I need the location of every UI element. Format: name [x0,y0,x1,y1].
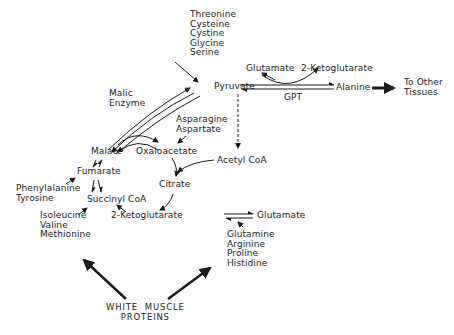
arrow-precursors-to-glutamate [238,222,243,227]
label-glutamate-bottom: Glutamate [257,210,305,220]
label-to-other-tissues: To Other Tissues [404,78,443,97]
label-pyruvate: Pyruvate [214,81,255,91]
label-citrate: Citrate [159,179,190,189]
label-succinyl-coa: Succinyl CoA [87,194,146,204]
label-gpt: GPT [284,92,302,102]
label-asparagine-aspartate: Asparagine Aspartate [176,115,228,134]
label-acetyl-coa: Acetyl CoA [217,155,267,165]
label-ketoglutarate-bottom: 2-Ketoglutarate [111,210,183,220]
label-phenylalanine-tyrosine: Phenylalanine Tyrosine [16,184,80,203]
label-glutamate-top: Glutamate [246,63,294,73]
label-fumarate: Fumarate [77,166,121,176]
label-oxaloacetate: Oxaloacetate [136,146,197,156]
arrow-precursors-to-pyruvate [175,62,198,82]
label-white-muscle-proteins: WHITE MUSCLE PROTEINS [106,303,185,322]
arrow-succinyl-to-fumarate [92,180,94,192]
arrow-fumarate-to-succinyl [98,180,101,192]
label-isoleucine-valine-methionine: Isoleucine Valine Methionine [40,211,91,240]
arrow-citrate-to-ketoglutarate [160,194,173,210]
arrow-proteins-to-glutamate-precursors [168,268,210,299]
arrow-acetylcoa-to-citrate [178,160,214,172]
label-malic-enzyme: Malic Enzyme [109,89,145,108]
label-malate: Malate [91,146,122,156]
metabolic-pathway-diagram: Threonine Cysteine Cystine Glycine Serin… [0,0,454,335]
arrow-proteins-to-ilevalmet [84,260,126,299]
label-pyruvate-precursors: Threonine Cysteine Cystine Glycine Serin… [190,10,236,58]
label-glutamate-precursors: Glutamine Arginine Proline Histidine [227,230,275,268]
label-ketoglutarate-top: 2-Ketoglutarate [301,63,373,73]
arrow-oxaloacetate-to-citrate [172,158,177,176]
label-alanine: Alanine [336,82,370,92]
arrow-aspartate-to-oxaloacetate [178,136,186,143]
